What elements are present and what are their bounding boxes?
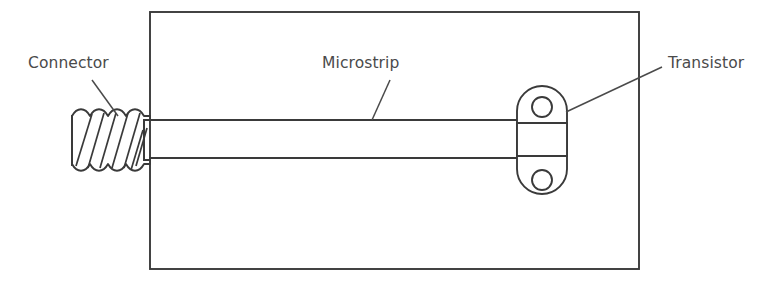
transistor-center-tab bbox=[517, 123, 567, 156]
diagram-canvas: Connector Microstrip Transistor bbox=[0, 0, 782, 286]
microstrip-leader-line bbox=[372, 80, 390, 120]
transistor-leader-line bbox=[566, 67, 662, 112]
label-connector: Connector bbox=[28, 56, 109, 72]
microstrip-line bbox=[150, 120, 525, 158]
threaded-connector bbox=[72, 109, 150, 171]
label-microstrip: Microstrip bbox=[322, 56, 399, 72]
circuit-diagram-svg bbox=[0, 0, 782, 286]
transistor-package bbox=[517, 86, 567, 194]
transistor-mounting-hole-top bbox=[532, 97, 552, 117]
transistor-mounting-hole-bottom bbox=[532, 170, 552, 190]
label-transistor: Transistor bbox=[668, 56, 744, 72]
